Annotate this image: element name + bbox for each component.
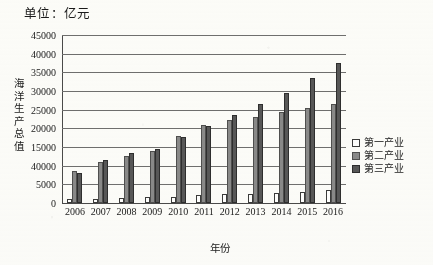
bar-group <box>217 35 243 203</box>
bar-group <box>62 35 88 203</box>
bar-group <box>165 35 191 203</box>
legend-swatch <box>352 165 360 173</box>
bar-group <box>114 35 140 203</box>
y-axis-tick-label: 25000 <box>31 106 56 116</box>
legend-swatch <box>352 139 360 147</box>
legend-swatch <box>352 152 360 160</box>
bar <box>77 173 82 203</box>
chart-title: 单位：亿元 <box>24 3 91 22</box>
x-axis-tick-labels: 2006200720082009201020112012201320142015… <box>62 206 346 217</box>
y-axis-tick-label: 0 <box>51 199 56 209</box>
bar <box>129 153 134 203</box>
y-axis-title: 海洋生产总值 <box>12 78 26 154</box>
y-axis-tick-label: 35000 <box>31 68 56 78</box>
x-axis-tick-label: 2011 <box>191 206 217 217</box>
bar-group <box>269 35 295 203</box>
x-axis-tick-label: 2014 <box>269 206 295 217</box>
x-axis-title: 年份 <box>0 240 433 255</box>
bar-group <box>191 35 217 203</box>
bars-layer <box>62 35 346 203</box>
y-axis-tick-label: 5000 <box>36 180 56 190</box>
bar <box>155 149 160 203</box>
chart-legend: 第一产业第二产业第三产业 <box>352 138 404 174</box>
x-axis-tick-label: 2009 <box>139 206 165 217</box>
x-axis-tick-label: 2008 <box>114 206 140 217</box>
x-axis-tick-label: 2006 <box>62 206 88 217</box>
x-axis-tick-label: 2015 <box>294 206 320 217</box>
plot-area: 4500040000350003000025000200001500040000… <box>62 35 346 203</box>
bar <box>232 115 237 203</box>
x-axis-tick-label: 2010 <box>165 206 191 217</box>
y-axis-tick-label: 15000 <box>31 143 56 153</box>
legend-item: 第一产业 <box>352 138 404 148</box>
legend-label: 第一产业 <box>364 138 404 148</box>
legend-label: 第三产业 <box>364 164 404 174</box>
x-axis-tick-label: 2007 <box>88 206 114 217</box>
y-axis-tick-label: 40000 <box>31 50 56 60</box>
bar <box>206 126 211 203</box>
bar <box>284 93 289 203</box>
x-axis-tick-label: 2013 <box>243 206 269 217</box>
y-axis-tick-label: 30000 <box>31 87 56 97</box>
legend-item: 第二产业 <box>352 151 404 161</box>
bar <box>103 160 108 203</box>
bar-group <box>294 35 320 203</box>
legend-label: 第二产业 <box>364 151 404 161</box>
y-axis-tick-label: 40000 <box>31 162 56 172</box>
bar <box>336 63 341 203</box>
x-axis-tick-label: 2016 <box>320 206 346 217</box>
legend-item: 第三产业 <box>352 164 404 174</box>
y-axis-tick-label: 45000 <box>31 31 56 41</box>
bar-group <box>243 35 269 203</box>
y-axis-tick-label: 20000 <box>31 124 56 134</box>
bar <box>181 137 186 203</box>
bar <box>258 104 263 203</box>
bar-group <box>88 35 114 203</box>
bar-group <box>320 35 346 203</box>
bar-group <box>139 35 165 203</box>
x-axis-tick-label: 2012 <box>217 206 243 217</box>
gridline: 0 <box>62 203 346 204</box>
bar <box>310 78 315 203</box>
